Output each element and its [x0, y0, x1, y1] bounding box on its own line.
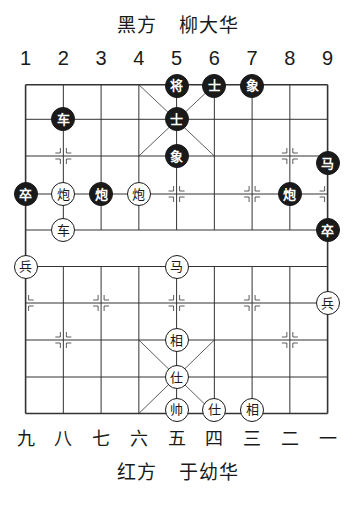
red-piece-炮[interactable]: 炮 — [127, 182, 151, 206]
black-piece-炮[interactable]: 炮 — [89, 182, 113, 206]
file-number-bottom: 七 — [86, 424, 116, 450]
file-number-bottom: 三 — [237, 424, 267, 450]
red-piece-马[interactable]: 马 — [165, 255, 189, 279]
black-piece-象[interactable]: 象 — [240, 74, 264, 98]
black-piece-炮[interactable]: 炮 — [278, 182, 302, 206]
file-number-bottom: 五 — [162, 424, 192, 450]
red-side-title: 红方于幼华 — [0, 457, 356, 484]
file-number-bottom: 六 — [124, 424, 154, 450]
red-side-label: 红方 — [117, 461, 157, 483]
red-piece-仕[interactable]: 仕 — [165, 365, 189, 389]
red-piece-相[interactable]: 相 — [240, 398, 264, 422]
red-piece-兵[interactable]: 兵 — [14, 255, 38, 279]
black-piece-将[interactable]: 将 — [165, 74, 189, 98]
black-piece-卒[interactable]: 卒 — [316, 218, 340, 242]
black-piece-象[interactable]: 象 — [165, 144, 189, 168]
file-number-bottom: 二 — [275, 424, 305, 450]
black-piece-士[interactable]: 士 — [202, 74, 226, 98]
black-piece-士[interactable]: 士 — [165, 107, 189, 131]
red-piece-帅[interactable]: 帅 — [165, 398, 189, 422]
file-number-bottom: 九 — [11, 424, 41, 450]
file-number-bottom: 四 — [199, 424, 229, 450]
red-player-name: 于幼华 — [179, 461, 239, 483]
red-piece-兵[interactable]: 兵 — [316, 291, 340, 315]
black-piece-卒[interactable]: 卒 — [14, 182, 38, 206]
black-piece-马[interactable]: 马 — [316, 151, 340, 175]
red-piece-仕[interactable]: 仕 — [202, 398, 226, 422]
file-number-bottom: 一 — [313, 424, 343, 450]
file-number-bottom: 八 — [48, 424, 78, 450]
red-piece-相[interactable]: 相 — [165, 328, 189, 352]
